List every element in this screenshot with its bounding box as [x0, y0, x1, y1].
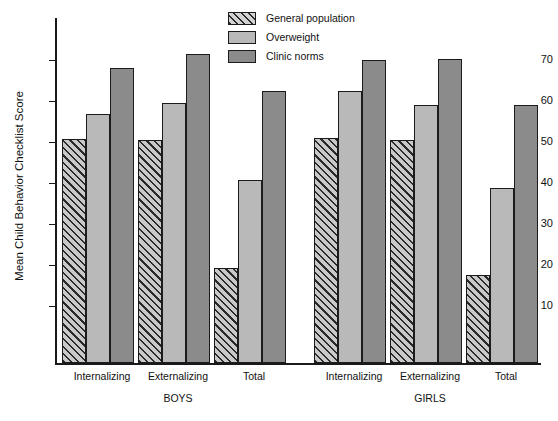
bar-externalizing-overweight-boys: [162, 103, 186, 363]
x-group-label-boys: BOYS: [118, 392, 238, 404]
dark-gray-swatch-icon: [228, 50, 256, 63]
bar-internalizing-overweight-boys: [86, 114, 110, 363]
bar-total-overweight-girls: [490, 188, 514, 363]
legend-label: General population: [266, 11, 355, 25]
bar-internalizing-clinic-norms-girls: [362, 60, 386, 363]
bar-internalizing-clinic-norms-boys: [110, 68, 134, 363]
bar-total-clinic-norms-girls: [514, 105, 538, 363]
bar-externalizing-clinic-norms-boys: [186, 54, 210, 363]
bar-internalizing-general-population-boys: [62, 139, 86, 363]
x-group-label-girls: GIRLS: [370, 392, 490, 404]
x-label-girls-total: Total: [446, 370, 558, 382]
bar-externalizing-general-population-boys: [138, 140, 162, 363]
bar-externalizing-clinic-norms-girls: [438, 59, 462, 363]
legend-label: Overweight: [266, 30, 319, 44]
hatched-swatch-icon: [228, 12, 256, 25]
bar-total-overweight-boys: [238, 180, 262, 363]
bar-total-general-population-boys: [214, 268, 238, 363]
bar-internalizing-overweight-girls: [338, 91, 362, 363]
bar-total-clinic-norms-boys: [262, 91, 286, 363]
bar-total-general-population-girls: [466, 275, 490, 363]
light-gray-swatch-icon: [228, 31, 256, 44]
bar-internalizing-general-population-girls: [314, 138, 338, 363]
x-axis-line: [55, 363, 541, 365]
bar-externalizing-overweight-girls: [414, 105, 438, 363]
y-axis-title: Mean Child Behavior Checklist Score: [13, 71, 25, 301]
bars-area: [55, 18, 541, 363]
legend-label: Clinic norms: [266, 49, 324, 63]
bar-externalizing-general-population-girls: [390, 140, 414, 363]
